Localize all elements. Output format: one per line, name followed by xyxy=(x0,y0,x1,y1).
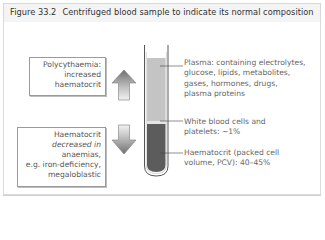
box-line: anaemias, xyxy=(22,150,101,160)
up-arrow-icon xyxy=(112,70,136,100)
label-line: White blood cells and xyxy=(184,117,324,127)
label-line: plasma proteins xyxy=(184,89,324,99)
down-arrow-icon xyxy=(112,125,136,154)
box-line: e.g. iron-deficiency, xyxy=(22,160,101,170)
label-line: Plasma: containing electrolytes, xyxy=(184,58,324,68)
box-line: increased xyxy=(34,70,101,80)
plasma-layer xyxy=(147,58,166,122)
polycythaemia-box: Polycythaemia: increased haematocrit xyxy=(29,57,106,96)
haematocrit-label: Haematocrit (packed cell volume, PCV): 4… xyxy=(184,148,324,169)
label-line: gases, hormones, drugs, xyxy=(184,79,324,89)
box-line: haematocrit xyxy=(34,80,101,90)
label-line: glucose, lipids, metabolites, xyxy=(184,68,324,78)
box-line: megaloblastic xyxy=(22,170,101,180)
box-line: Polycythaemia: xyxy=(34,60,101,70)
label-line: platelets: ~1% xyxy=(184,127,324,137)
box-line: decreased in xyxy=(22,140,101,150)
anaemia-box: Haematocrit decreased in anaemias, e.g. … xyxy=(17,127,106,187)
label-line: Haematocrit (packed cell xyxy=(184,148,324,158)
plasma-label: Plasma: containing electrolytes, glucose… xyxy=(184,58,324,99)
label-line: volume, PCV): 40–45% xyxy=(184,158,324,168)
test-tube xyxy=(145,45,169,176)
buffy-coat-layer xyxy=(147,121,166,124)
wbc-label: White blood cells and platelets: ~1% xyxy=(184,117,324,138)
box-line: Haematocrit xyxy=(22,130,101,140)
red-cell-layer xyxy=(147,124,166,172)
